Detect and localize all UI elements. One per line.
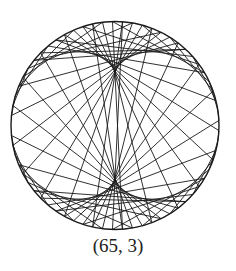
chord-line: [209, 82, 218, 111]
chord-line: [64, 35, 218, 131]
chord-line: [11, 136, 15, 156]
chord-line: [13, 32, 161, 145]
chord-line: [170, 160, 213, 214]
chord-line: [142, 169, 209, 226]
chord-line: [13, 69, 28, 106]
chord-line: [13, 106, 161, 219]
chord-line: [11, 37, 169, 115]
chord-line: [13, 145, 28, 182]
string-art-diagram: [0, 0, 236, 240]
chord-lines: [11, 22, 218, 230]
figure-caption: (65, 3): [0, 235, 236, 257]
chord-line: [23, 22, 103, 77]
chord-line: [64, 120, 218, 216]
chord-line: [23, 174, 103, 229]
chord-line: [193, 57, 216, 101]
chord-line: [11, 136, 169, 214]
